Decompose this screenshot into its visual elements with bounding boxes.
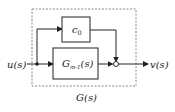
summing-junction <box>114 62 119 67</box>
system-label: G(s) <box>76 92 97 103</box>
input-label: u(s) <box>7 59 26 70</box>
output-label: v(s) <box>150 59 169 70</box>
block-diagram: c0 Gm-1(s) u(s) v(s) G(s) <box>0 0 175 112</box>
